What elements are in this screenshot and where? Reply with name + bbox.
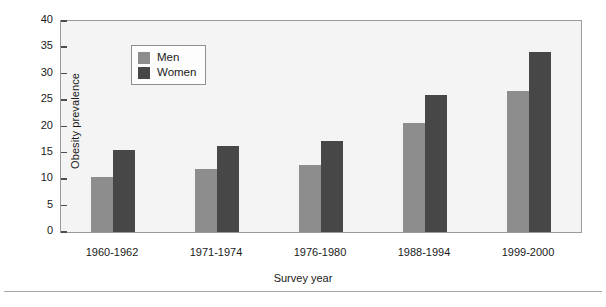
y-tick-label: 25 (23, 92, 53, 104)
legend-swatch-women-icon (138, 67, 150, 79)
legend: Men Women (131, 45, 206, 85)
chart-figure: Obesity prevalence 0510152025303540 Men … (0, 0, 606, 307)
legend-label-men: Men (157, 51, 179, 64)
legend-label-women: Women (157, 66, 196, 79)
bar-men-1971-1974 (195, 169, 217, 232)
bottom-divider (4, 291, 602, 292)
bar-men-1999-2000 (507, 91, 529, 232)
x-axis-title: Survey year (0, 272, 606, 284)
bar-women-1960-1962 (113, 150, 135, 232)
bar-women-1999-2000 (529, 52, 551, 232)
x-tick-label: 1976-1980 (265, 246, 375, 258)
bar-women-1976-1980 (321, 141, 343, 232)
y-tick-label: 5 (23, 198, 53, 210)
legend-item-men: Men (138, 50, 196, 65)
y-tick-label: 0 (23, 224, 53, 236)
y-tick-label: 40 (23, 13, 53, 25)
legend-item-women: Women (138, 65, 196, 80)
y-tick-label: 35 (23, 39, 53, 51)
y-tick-label: 10 (23, 171, 53, 183)
y-tick-label: 20 (23, 119, 53, 131)
plot-area: Obesity prevalence 0510152025303540 Men … (60, 20, 582, 233)
bar-women-1971-1974 (217, 146, 239, 233)
bar-women-1988-1994 (425, 95, 447, 232)
legend-swatch-men-icon (138, 52, 150, 64)
bar-men-1976-1980 (299, 165, 321, 232)
x-tick-label: 1988-1994 (369, 246, 479, 258)
x-tick-label: 1999-2000 (473, 246, 583, 258)
y-tick-label: 30 (23, 66, 53, 78)
bar-men-1988-1994 (403, 123, 425, 232)
x-tick-label: 1971-1974 (161, 246, 271, 258)
y-tick-label: 15 (23, 145, 53, 157)
bar-men-1960-1962 (91, 177, 113, 232)
x-tick-label: 1960-1962 (57, 246, 167, 258)
